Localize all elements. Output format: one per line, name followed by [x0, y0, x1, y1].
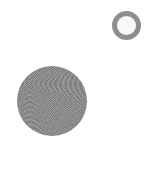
circle-filled-shape	[17, 66, 87, 136]
image-canvas	[0, 0, 149, 170]
circle-outline-shape	[112, 11, 141, 40]
